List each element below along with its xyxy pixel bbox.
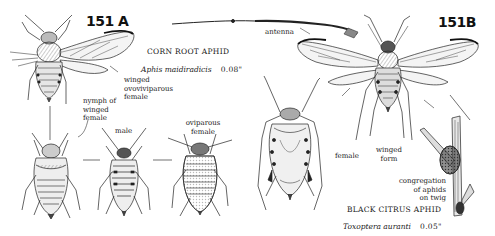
- nymph-aphid-illustration: [22, 133, 80, 219]
- pointer-line: [342, 88, 350, 96]
- pointer-line: [424, 100, 434, 108]
- label-nymph-of-winged-female: nymph of winged female: [83, 97, 116, 123]
- species-scientific-line-b: Toxoptera auranti 0.05": [343, 214, 442, 233]
- pointer-arrow: [78, 120, 88, 137]
- winged-form-aphid-illustration: [298, 15, 479, 140]
- species-size-a: 0.08": [221, 65, 243, 74]
- plate-number-b: 151B: [438, 14, 476, 30]
- species-scientific-name-a: Aphis maidiradicis: [141, 65, 212, 74]
- species-size-b: 0.05": [420, 222, 442, 231]
- oviparous-female-aphid-illustration: [168, 134, 232, 216]
- label-antenna: antenna: [265, 28, 294, 37]
- species-common-name-a: CORN ROOT APHID: [147, 47, 229, 56]
- label-oviparous-female: oviparous female: [183, 119, 223, 136]
- species-common-name-b: BLACK CITRUS APHID: [347, 205, 441, 214]
- pointer-arrow: [110, 66, 118, 72]
- label-winged-ovoviviparous-female: winged ovoviviparous female: [124, 76, 173, 102]
- female-aphid-illustration: [258, 76, 322, 210]
- species-scientific-line-a: Aphis maidiradicis 0.08": [141, 57, 242, 76]
- male-aphid-illustration: [98, 128, 150, 216]
- label-congregation-of-aphids: congregation of aphids on twig: [396, 177, 446, 203]
- label-winged-form: winged form: [373, 146, 405, 163]
- species-scientific-name-b: Toxoptera auranti: [343, 222, 411, 231]
- plate-number-a: 151 A: [86, 13, 128, 29]
- label-male: male: [115, 127, 132, 136]
- label-female: female: [335, 152, 359, 161]
